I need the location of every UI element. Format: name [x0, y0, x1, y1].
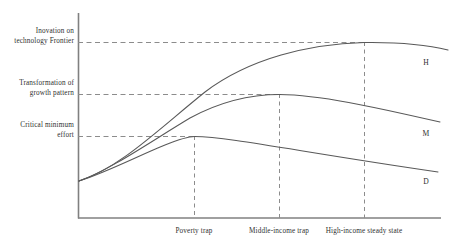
curve-label-d: D — [419, 177, 433, 186]
curve-d — [79, 137, 438, 182]
curve-m — [79, 95, 440, 182]
curve-label-h: H — [419, 58, 433, 67]
x-axis-label-middle-income-trap: Middle-income trap — [249, 227, 309, 236]
x-axis-label-poverty-trap: Poverty trap — [175, 227, 212, 236]
y-axis-label-critical-minimum: Critical minimum effort — [8, 121, 74, 141]
y-axis-label-transformation: Transformation of growth pattern — [8, 79, 74, 99]
x-axis-label-high-income-steady-state: High-income steady state — [326, 227, 403, 236]
growth-trajectory-figure: Inovation on technology Frontier Transfo… — [0, 0, 460, 251]
curve-label-m: M — [419, 129, 433, 138]
y-axis-label-innovation: Inovation on technology Frontier — [8, 27, 74, 47]
